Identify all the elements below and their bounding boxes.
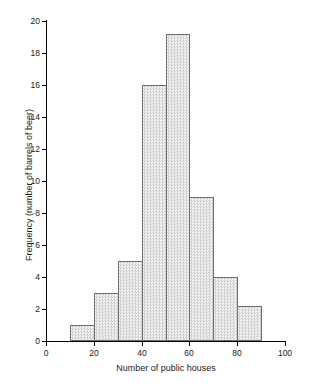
x-tick-mark: [94, 342, 95, 346]
y-tick-label: 6: [35, 241, 40, 250]
y-tick-mark: [42, 245, 46, 246]
y-tick-label: 4: [35, 273, 40, 282]
y-tick-mark: [42, 309, 46, 310]
y-tick-mark: [42, 181, 46, 182]
histogram-bar: [189, 197, 214, 341]
histogram-bar: [166, 34, 190, 341]
histogram-figure: 02468101214161820 020406080100 Number of…: [0, 0, 309, 392]
histogram-bar: [213, 277, 238, 341]
y-tick-mark: [42, 277, 46, 278]
y-tick-label: 18: [31, 49, 40, 58]
x-tick-label: 0: [31, 349, 61, 358]
y-tick-label: 0: [35, 337, 40, 346]
y-tick-mark: [42, 21, 46, 22]
x-tick-mark: [189, 342, 190, 346]
x-tick-label: 20: [79, 349, 109, 358]
y-tick-mark: [42, 117, 46, 118]
x-tick-mark: [237, 342, 238, 346]
x-tick-label: 60: [174, 349, 204, 358]
x-tick-mark: [46, 342, 47, 346]
y-tick-label: 2: [35, 305, 40, 314]
y-axis-line: [46, 20, 47, 342]
y-tick-mark: [42, 85, 46, 86]
y-tick-label: 20: [31, 17, 40, 26]
y-axis-title: Frequency (number of barrels of beer): [24, 70, 34, 300]
histogram-bar: [237, 306, 262, 341]
x-tick-mark: [142, 342, 143, 346]
y-tick-mark: [42, 149, 46, 150]
x-tick-mark: [285, 342, 286, 346]
histogram-bar: [94, 293, 119, 341]
x-axis-title: Number of public houses: [46, 363, 286, 373]
x-tick-label: 100: [270, 349, 300, 358]
x-tick-label: 40: [127, 349, 157, 358]
x-axis-line: [46, 341, 286, 342]
histogram-bar: [118, 261, 143, 341]
y-tick-label: 8: [35, 209, 40, 218]
plot-area: 02468101214161820 020406080100: [0, 0, 309, 392]
histogram-bar: [70, 325, 95, 341]
x-tick-label: 80: [222, 349, 252, 358]
histogram-bar: [142, 85, 167, 341]
y-tick-mark: [42, 53, 46, 54]
y-tick-mark: [42, 213, 46, 214]
